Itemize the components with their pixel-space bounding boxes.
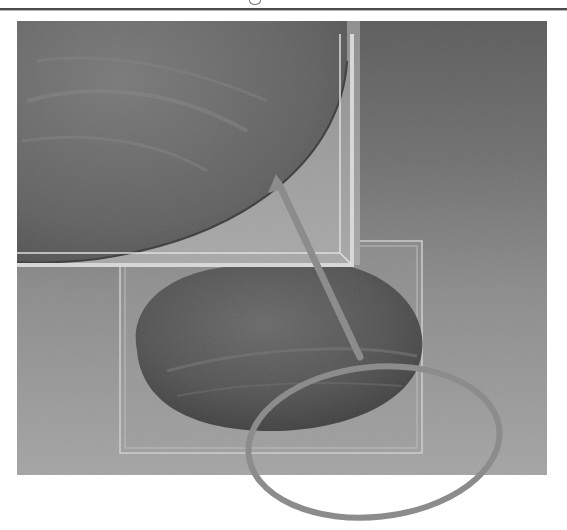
highlight-ring-layer — [0, 0, 567, 530]
highlight-ring — [241, 354, 507, 530]
